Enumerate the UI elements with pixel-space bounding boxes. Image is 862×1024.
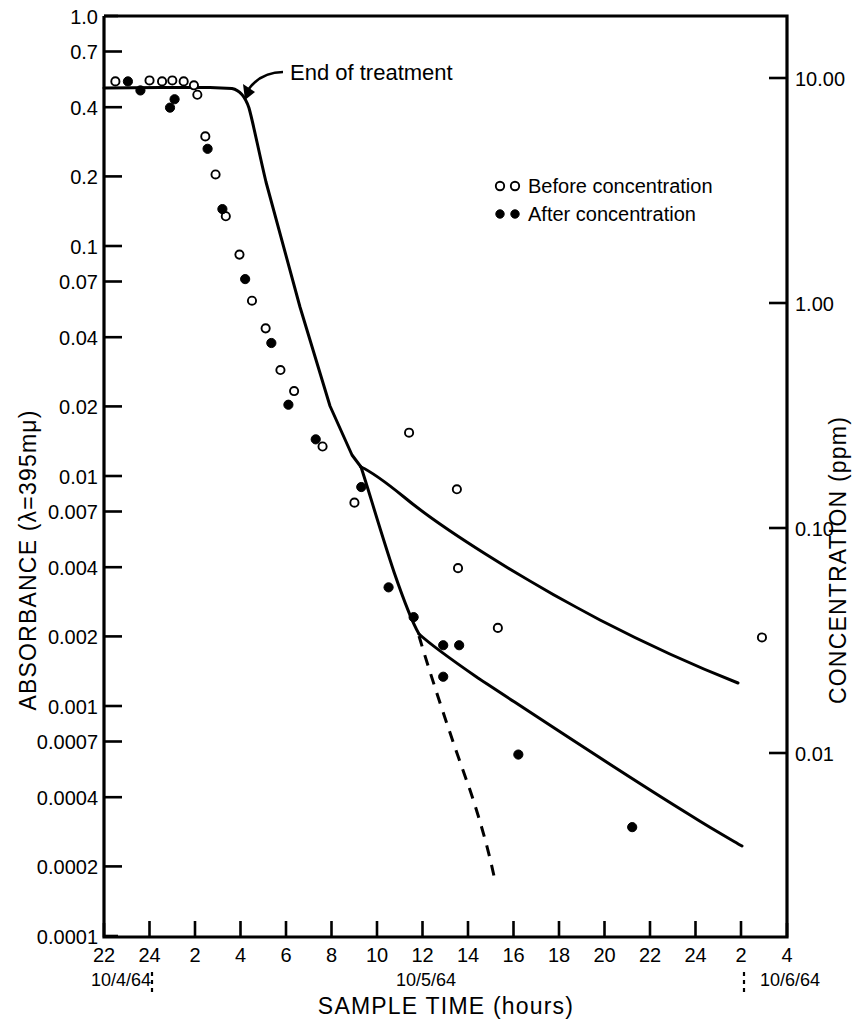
y-tick-label: 0.007 — [48, 501, 98, 523]
data-point-filled — [284, 400, 293, 409]
y-tick-label: 0.1 — [70, 236, 98, 258]
data-point-open — [180, 77, 188, 85]
curve-lower-steep — [361, 467, 419, 634]
data-point-open — [276, 366, 284, 374]
date-marker-label: 10/5/64 — [396, 970, 456, 990]
data-point-open — [405, 429, 413, 437]
curve-extrapolated-decay — [419, 636, 494, 876]
x-tick-label: 10 — [366, 944, 388, 966]
annotation-end-of-treatment: End of treatment — [243, 60, 453, 100]
date-marker-label: 10/4/64 — [91, 970, 151, 990]
y2-tick-label: 0.01 — [795, 743, 834, 765]
y-tick-label: 0.0004 — [37, 787, 98, 809]
legend-item-before: Before concentration — [496, 175, 713, 197]
y2-axis-title: CONCENTRATION (ppm) — [825, 416, 851, 704]
series-before-concentration — [111, 76, 766, 641]
plot-frame — [104, 16, 787, 937]
legend-marker-open-circle — [496, 182, 504, 190]
data-point-open — [350, 499, 358, 507]
x-tick-label: 8 — [326, 944, 337, 966]
annotation-arrowhead — [243, 84, 255, 100]
data-point-open — [318, 442, 326, 450]
data-point-filled — [136, 86, 145, 95]
y-tick-label: 0.002 — [48, 626, 98, 648]
legend-label: After concentration — [528, 203, 696, 225]
data-point-filled — [311, 435, 320, 444]
y-tick-label: 0.07 — [59, 271, 98, 293]
data-point-filled — [409, 613, 418, 622]
data-point-filled — [384, 583, 393, 592]
y-tick-label: 1.0 — [70, 6, 98, 28]
annotation-label: End of treatment — [290, 60, 453, 85]
x-tick-label: 22 — [93, 944, 115, 966]
x-tick-label: 16 — [502, 944, 524, 966]
y-tick-label: 0.0007 — [37, 731, 98, 753]
x-tick-label: 2 — [189, 944, 200, 966]
x-axis-ticks — [104, 921, 787, 937]
y-tick-label: 0.01 — [59, 466, 98, 488]
y2-axis-ticks — [769, 78, 787, 753]
y2-tick-label: 1.00 — [795, 293, 834, 315]
data-point-open — [158, 77, 166, 85]
data-point-open — [201, 132, 209, 140]
date-marker-label: 10/6/64 — [760, 970, 820, 990]
y-axis-tick-labels: 1.0 0.7 0.4 0.2 0.1 0.07 0.04 0.02 0.01 … — [37, 6, 98, 948]
x-tick-label: 4 — [235, 944, 246, 966]
data-point-filled — [439, 641, 448, 650]
legend-marker-filled-circle — [511, 210, 519, 218]
x-tick-label: 24 — [684, 944, 706, 966]
data-point-open — [290, 387, 298, 395]
y-tick-label: 0.2 — [70, 166, 98, 188]
data-point-filled — [628, 823, 637, 832]
x-tick-label: 20 — [593, 944, 615, 966]
y2-tick-label: 10.00 — [795, 68, 845, 90]
data-point-filled — [165, 103, 174, 112]
data-point-open — [758, 633, 766, 641]
x-tick-label: 6 — [280, 944, 291, 966]
y-axis-ticks — [104, 16, 122, 936]
date-markers: 10/4/64 10/5/64 10/6/64 — [91, 970, 820, 992]
y-tick-label: 0.001 — [48, 696, 98, 718]
data-point-filled — [241, 275, 250, 284]
data-point-filled — [455, 641, 464, 650]
legend-label: Before concentration — [528, 175, 713, 197]
y-tick-label: 0.04 — [59, 327, 98, 349]
data-point-open — [211, 170, 219, 178]
data-point-open — [262, 324, 270, 332]
x-tick-label: 4 — [781, 944, 792, 966]
y-tick-label: 0.7 — [70, 41, 98, 63]
x-axis-title: SAMPLE TIME (hours) — [318, 993, 574, 1019]
y-tick-label: 0.02 — [59, 396, 98, 418]
legend-item-after: After concentration — [496, 203, 696, 225]
y-tick-label: 0.004 — [48, 557, 98, 579]
data-point-open — [453, 485, 461, 493]
data-point-open — [190, 81, 198, 89]
x-tick-label: 2 — [735, 944, 746, 966]
data-point-filled — [514, 750, 523, 759]
data-point-open — [248, 297, 256, 305]
data-point-filled — [203, 144, 212, 153]
data-point-filled — [123, 77, 132, 86]
chart-svg: 1.0 0.7 0.4 0.2 0.1 0.07 0.04 0.02 0.01 … — [0, 0, 862, 1024]
y-tick-label: 0.0001 — [37, 926, 98, 948]
data-point-filled — [439, 672, 448, 681]
x-axis-tick-labels: 22 24 2 4 6 8 10 12 14 16 18 20 22 24 2 … — [93, 944, 793, 966]
data-point-open — [235, 250, 243, 258]
legend: Before concentration After concentration — [496, 175, 713, 225]
x-tick-label: 22 — [639, 944, 661, 966]
legend-marker-filled-circle — [496, 210, 504, 218]
data-point-open — [454, 564, 462, 572]
data-point-filled — [218, 205, 227, 214]
y-tick-label: 0.0002 — [37, 856, 98, 878]
y-axis-title: ABSORBANCE (λ=395mμ) — [15, 409, 41, 710]
x-tick-label: 18 — [548, 944, 570, 966]
data-point-open — [494, 624, 502, 632]
y-tick-label: 0.4 — [70, 97, 98, 119]
x-tick-label: 12 — [411, 944, 433, 966]
data-point-filled — [357, 482, 366, 491]
x-tick-label: 14 — [457, 944, 479, 966]
chart-figure: 1.0 0.7 0.4 0.2 0.1 0.07 0.04 0.02 0.01 … — [0, 0, 862, 1024]
data-point-filled — [170, 95, 179, 104]
data-point-open — [168, 76, 176, 84]
x-tick-label: 24 — [138, 944, 160, 966]
